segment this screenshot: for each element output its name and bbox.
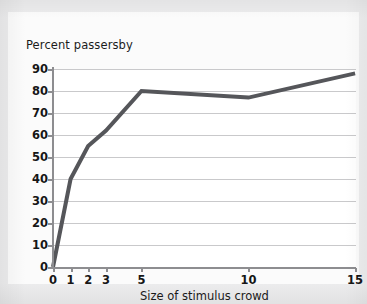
x-axis-tick-mark [355,268,357,272]
y-axis-tick-mark [48,91,53,93]
y-axis-tick-label: 70 [22,106,48,120]
x-axis-tick-mark [88,268,90,272]
y-axis-tick-mark [48,179,53,181]
scanned-page: Percent passersby 0102030405060708090 01… [0,0,367,304]
figure-card: Percent passersby 0102030405060708090 01… [8,12,359,284]
x-axis-tick-label: 1 [67,273,75,287]
y-axis-tick-label: 60 [22,128,48,142]
x-axis-tick-labels: 012351015 [53,273,356,289]
y-axis-tick-label: 90 [22,62,48,76]
y-axis-tick-label: 40 [22,172,48,186]
x-axis-tick-label: 2 [84,273,92,287]
y-axis-tick-label: 50 [22,150,48,164]
y-axis-tick-label: 80 [22,84,48,98]
series-line-percent-passersby [53,73,355,267]
x-axis-tick-label: 0 [49,273,57,287]
y-axis-tick-mark [48,245,53,247]
x-axis-tick-label: 3 [102,273,110,287]
y-axis-tick-mark [48,113,53,115]
y-axis-tick-mark [48,157,53,159]
y-axis-tick-label: 10 [22,238,48,252]
x-axis-tick-label: 10 [240,273,256,287]
y-axis-tick-mark [48,223,53,225]
y-axis-line [52,67,54,269]
x-axis-line [52,267,356,269]
x-axis-tick-label: 5 [137,273,145,287]
y-axis-tick-label: 0 [22,260,48,274]
x-axis-tick-mark [248,268,250,272]
x-axis-tick-mark [141,268,143,272]
y-axis-tick-mark [48,69,53,71]
y-axis-tick-mark [48,201,53,203]
y-axis-tick-mark [48,135,53,137]
x-axis-tick-mark [106,268,108,272]
y-axis-tick-labels: 0102030405060708090 [18,69,48,267]
x-axis-tick-mark [53,268,55,272]
x-axis-title: Size of stimulus crowd [53,289,356,303]
y-axis-tick-label: 30 [22,194,48,208]
plot-area [53,69,356,267]
x-axis-tick-label: 15 [347,273,363,287]
data-line-chart [53,69,356,267]
y-axis-tick-label: 20 [22,216,48,230]
chart-title: Percent passersby [26,38,133,52]
x-axis-tick-mark [71,268,73,272]
